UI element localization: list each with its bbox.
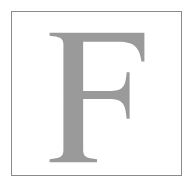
letter-frame: F <box>11 11 182 176</box>
letter-f-glyph: F <box>12 12 181 175</box>
